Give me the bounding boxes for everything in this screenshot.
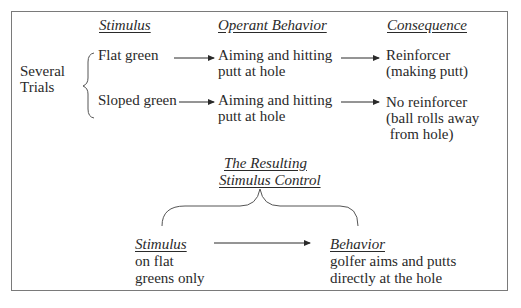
result-brace-icon (162, 189, 358, 226)
trials-brace-icon (83, 53, 94, 118)
result-behavior-header: Behavior (330, 236, 385, 253)
trials-label-line1: Several (20, 63, 65, 80)
result-stimulus-line1: on flat (135, 253, 174, 270)
row2-consequence-line2: (ball rolls away (386, 110, 479, 127)
row2-behavior-line2: putt at hole (218, 108, 286, 125)
result-title-line2: Stimulus Control (219, 172, 321, 189)
row1-stimulus: Flat green (98, 47, 158, 64)
header-operant-behavior: Operant Behavior (218, 17, 327, 34)
trials-label-line2: Trials (20, 79, 54, 96)
result-behavior-line1: golfer aims and putts (330, 253, 456, 270)
result-stimulus-header: Stimulus (135, 236, 187, 253)
row1-behavior-line1: Aiming and hitting (218, 47, 332, 64)
result-title-line1: The Resulting (224, 155, 307, 172)
row2-stimulus: Sloped green (98, 92, 177, 109)
row2-behavior-line1: Aiming and hitting (218, 92, 332, 109)
row2-consequence-line3: from hole) (386, 126, 453, 143)
row1-behavior-line2: putt at hole (218, 63, 286, 80)
header-stimulus: Stimulus (99, 17, 151, 34)
row2-consequence-line1: No reinforcer (386, 94, 467, 111)
result-behavior-line2: directly at the hole (330, 270, 442, 287)
row1-consequence-line1: Reinforcer (386, 47, 450, 64)
result-stimulus-line2: greens only (135, 270, 205, 287)
header-consequence: Consequence (387, 17, 467, 34)
row1-consequence-line2: (making putt) (386, 63, 468, 80)
